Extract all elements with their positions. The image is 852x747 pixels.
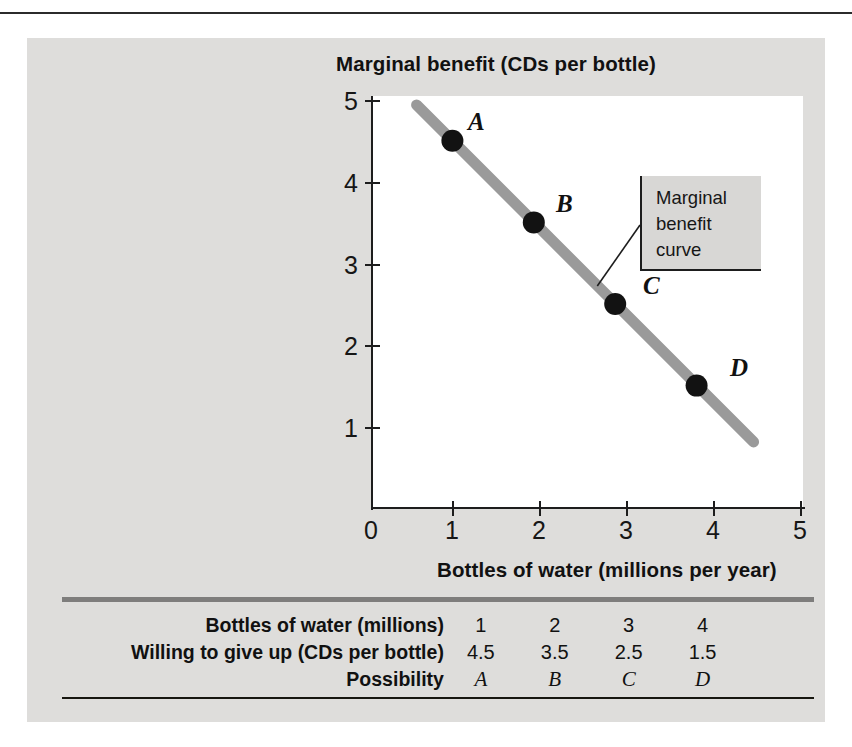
x-axis-tick-3 — [626, 501, 628, 516]
y-axis-label-3: 3 — [328, 251, 358, 280]
x-axis-label-5: 5 — [785, 516, 815, 545]
table-cell: C — [592, 666, 666, 693]
table-row-label: Willing to give up (CDs per bottle) — [62, 639, 444, 666]
y-axis-label-2: 2 — [328, 332, 358, 361]
x-axis-tick-1 — [452, 501, 454, 516]
table-top-rule — [62, 597, 814, 602]
callout-line-1: Marginal — [656, 185, 761, 211]
table-cell: A — [444, 666, 518, 693]
table-cell: 1.5 — [666, 639, 740, 666]
figure-root: 5 4 3 2 1 0 1 2 3 4 5 Marginal benefit (… — [0, 0, 852, 747]
table-spacer-cell — [740, 612, 814, 639]
x-axis-label-2: 2 — [524, 516, 554, 545]
x-axis-label-3: 3 — [611, 516, 641, 545]
table-cell: 2 — [518, 612, 592, 639]
y-axis-line — [371, 96, 373, 510]
table-cell: 4.5 — [444, 639, 518, 666]
table-bottom-rule — [62, 697, 814, 699]
x-axis-tick-4 — [713, 501, 715, 516]
x-axis-label-4: 4 — [698, 516, 728, 545]
x-axis-tick-2 — [539, 501, 541, 516]
x-axis-label-1: 1 — [437, 516, 467, 545]
callout-line-3: curve — [656, 237, 761, 263]
data-point-label-d: D — [730, 354, 748, 382]
possibilities-table: Bottles of water (millions)1234Willing t… — [62, 612, 814, 693]
y-axis-label-1: 1 — [328, 414, 358, 443]
table-cell: 2.5 — [592, 639, 666, 666]
table-cell: 3.5 — [518, 639, 592, 666]
table-spacer-cell — [740, 639, 814, 666]
x-axis-tick-5 — [800, 501, 802, 516]
y-axis-tick-3 — [365, 264, 380, 266]
table-cell: 1 — [444, 612, 518, 639]
data-point-label-b: B — [556, 190, 573, 218]
y-axis-title: Marginal benefit (CDs per bottle) — [336, 52, 656, 76]
plot-area-background — [372, 96, 803, 508]
table-spacer-cell — [740, 666, 814, 693]
y-axis-label-4: 4 — [328, 169, 358, 198]
table-row-label: Possibility — [62, 666, 444, 693]
y-axis-tick-1 — [365, 427, 380, 429]
y-axis-tick-4 — [365, 182, 380, 184]
callout-line-2: benefit — [656, 211, 761, 237]
x-axis-title: Bottles of water (millions per year) — [437, 558, 777, 582]
table-cell: 3 — [592, 612, 666, 639]
data-point-label-a: A — [468, 108, 485, 136]
y-axis-tick-5 — [365, 100, 380, 102]
marginal-benefit-curve-callout: Marginal benefit curve — [640, 176, 761, 271]
x-axis-label-0: 0 — [356, 516, 386, 545]
table-cell: 4 — [666, 612, 740, 639]
top-divider-rule — [0, 12, 852, 14]
table-cell: D — [666, 666, 740, 693]
data-point-label-c: C — [643, 272, 660, 300]
y-axis-tick-2 — [365, 345, 380, 347]
table-row: Willing to give up (CDs per bottle)4.53.… — [62, 639, 814, 666]
table-cell: B — [518, 666, 592, 693]
table-row: PossibilityABCD — [62, 666, 814, 693]
table-row-label: Bottles of water (millions) — [62, 612, 444, 639]
x-axis-line — [371, 507, 805, 509]
y-axis-label-5: 5 — [328, 87, 358, 116]
table-row: Bottles of water (millions)1234 — [62, 612, 814, 639]
